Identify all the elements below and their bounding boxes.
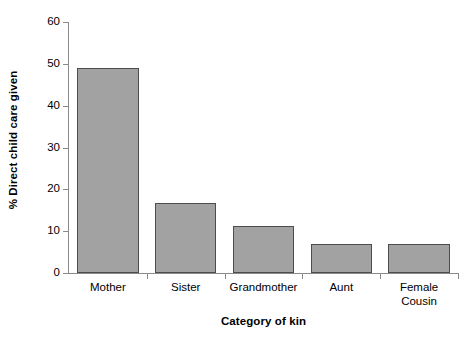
y-axis-tick-label: 30 <box>47 142 60 154</box>
y-axis-title-text: % Direct child care given <box>7 71 19 210</box>
x-axis-tick-mark <box>225 274 226 279</box>
y-axis-tick-mark <box>63 273 69 274</box>
y-axis-tick-mark <box>63 189 69 190</box>
y-axis-tick-mark <box>63 64 69 65</box>
x-axis-tick-mark <box>380 274 381 279</box>
x-axis-tick-label: Female Cousin <box>380 281 458 308</box>
y-axis-tick-label: 60 <box>47 16 60 28</box>
y-axis-tick-label: 0 <box>54 267 60 279</box>
bar[interactable] <box>388 244 449 273</box>
x-axis-tick-label: Sister <box>147 281 225 295</box>
x-axis-tick-mark <box>147 274 148 279</box>
x-axis-tick-label: Grandmother <box>225 281 303 295</box>
x-axis-tick-mark <box>302 274 303 279</box>
bar[interactable] <box>77 68 138 273</box>
bar[interactable] <box>311 244 372 273</box>
y-axis-tick-labels: 0102030405060 <box>28 0 64 347</box>
y-axis-tick-mark <box>63 231 69 232</box>
y-axis-tick-mark <box>63 22 69 23</box>
bar-chart-figure: % Direct child care given 0102030405060 … <box>0 0 470 347</box>
y-axis-title: % Direct child care given <box>0 0 26 280</box>
x-axis-tick-mark <box>458 274 459 279</box>
plot-area <box>69 22 458 273</box>
y-axis-tick-mark <box>63 106 69 107</box>
y-axis-tick-label: 20 <box>47 184 60 196</box>
y-axis-tick-label: 50 <box>47 58 60 70</box>
bar[interactable] <box>233 226 294 273</box>
y-axis-tick-mark <box>63 148 69 149</box>
bar[interactable] <box>155 203 216 273</box>
x-axis-tick-label: Mother <box>69 281 147 295</box>
x-axis-line <box>68 273 459 274</box>
y-axis-tick-label: 10 <box>47 225 60 237</box>
x-axis-tick-label: Aunt <box>302 281 380 295</box>
x-axis-title: Category of kin <box>69 315 458 327</box>
y-axis-tick-label: 40 <box>47 100 60 112</box>
